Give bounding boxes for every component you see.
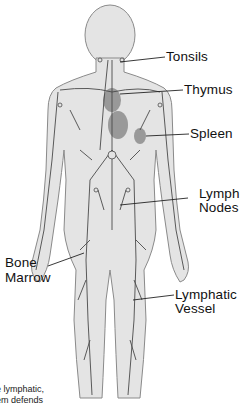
label-marrow: Marrow	[5, 271, 51, 285]
spleen-organ	[134, 128, 146, 144]
label-spleen: Spleen	[190, 127, 233, 141]
head	[85, 5, 135, 65]
label-bone: Bone	[5, 256, 37, 270]
label-lymph: Lymph	[199, 187, 240, 201]
caption-line-1: e lymphatic,	[0, 384, 44, 395]
label-lymphatic: Lymphatic	[175, 288, 237, 302]
label-nodes: Nodes	[199, 201, 239, 215]
caption-line-2: em defends	[0, 395, 43, 403]
label-vessel: Vessel	[175, 302, 215, 316]
heart-area	[108, 111, 128, 139]
label-tonsils: Tonsils	[166, 50, 208, 64]
label-thymus: Thymus	[184, 83, 233, 97]
